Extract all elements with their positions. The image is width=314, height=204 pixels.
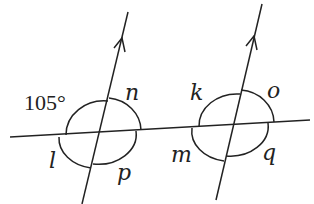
transversal-line — [10, 120, 310, 137]
angle-n-label: n — [125, 80, 139, 105]
given-angle-label: 105° — [24, 90, 66, 115]
angle-m-label: m — [171, 142, 192, 167]
left-upper-arc — [66, 101, 108, 135]
angle-diagram: 105° n l p k o m q — [0, 0, 314, 204]
right-lower-left-arc — [192, 128, 224, 161]
angle-p-label: p — [117, 160, 131, 185]
right-parallel-line — [216, 4, 262, 200]
left-lower-arc — [59, 137, 91, 168]
angle-k-label: k — [190, 80, 203, 105]
angle-o-label: o — [267, 78, 280, 103]
angle-q-label: q — [262, 140, 276, 165]
angle-l-label: l — [49, 148, 56, 173]
